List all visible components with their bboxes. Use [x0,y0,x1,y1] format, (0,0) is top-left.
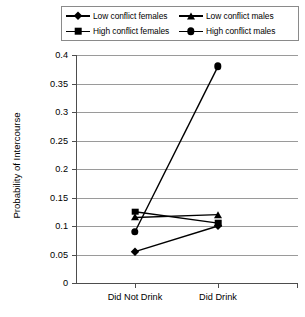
y-axis-tick [72,169,76,170]
y-axis-line [76,55,77,284]
x-axis-tick-label: Did Drink [199,292,237,302]
chart-figure: Low conflict females Low conflict males … [0,0,305,317]
y-axis-tick-label: 0.15 [30,193,68,202]
y-axis-tick [72,226,76,227]
plot-area [76,55,298,283]
y-axis-tick [72,112,76,113]
gridline [76,255,298,256]
y-axis-tick [72,198,76,199]
legend-entry-low-conflict-females: Low conflict females [66,10,179,21]
gridline [76,198,298,199]
x-axis-line [76,283,298,284]
x-axis-tick [218,283,219,288]
gridline [76,141,298,142]
y-axis-tick-label: 0.05 [30,250,68,259]
diamond-marker-icon [66,10,90,21]
y-axis-tick-label: 0.2 [30,165,68,174]
legend-entry-high-conflict-males: High conflict males [179,26,296,37]
y-axis-tick [72,283,76,284]
x-axis-tick [135,283,136,288]
x-axis-end-cap [297,283,298,288]
gridline [76,112,298,113]
legend-label: High conflict females [93,26,169,36]
y-axis-tick-label: 0.35 [30,79,68,88]
x-axis-tick-label: Did Not Drink [108,292,163,302]
legend-label: High conflict males [206,26,275,36]
circle-marker-icon [179,26,203,37]
gridline [76,55,298,56]
y-axis-tick [72,141,76,142]
y-axis-tick-label: 0.3 [30,108,68,117]
y-axis-tick-label: 0.1 [30,222,68,231]
gridline [76,169,298,170]
legend-entry-low-conflict-males: Low conflict males [179,10,296,21]
legend-entry-high-conflict-females: High conflict females [66,26,179,37]
y-axis-tick [72,84,76,85]
triangle-marker-icon [179,10,203,21]
chart-legend: Low conflict females Low conflict males … [61,6,299,41]
y-axis-tick [72,255,76,256]
y-axis-tick [72,55,76,56]
square-marker-icon [66,26,90,37]
y-axis-tick-label: 0.25 [30,136,68,145]
y-axis-tick-label: 0.4 [30,51,68,60]
legend-label: Low conflict males [206,11,274,21]
y-axis-tick-label: 0 [30,279,68,288]
legend-label: Low conflict females [93,11,167,21]
y-axis-title: Probability of Intercourse [11,91,22,241]
gridline [76,84,298,85]
gridline [76,226,298,227]
